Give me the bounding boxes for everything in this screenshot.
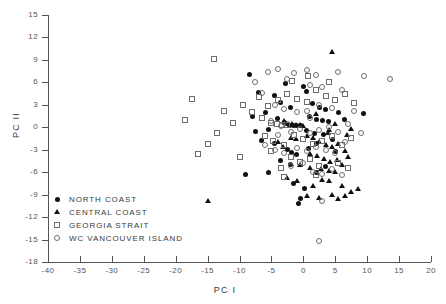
data-point: [348, 135, 354, 141]
data-point: [351, 108, 357, 114]
y-tick-mark: [42, 217, 48, 218]
x-tick-label: 10: [352, 266, 382, 275]
data-point: [189, 96, 195, 102]
y-tick-mark: [42, 82, 48, 83]
data-point: [272, 147, 278, 153]
data-point: [288, 154, 294, 160]
data-point: [345, 165, 351, 171]
y-tick-mark: [42, 150, 48, 151]
data-point: [278, 165, 284, 171]
data-point: [327, 159, 333, 164]
x-tick-label: 5: [320, 266, 350, 275]
data-point: [335, 196, 341, 201]
x-tick-mark: [303, 256, 304, 262]
data-point: [272, 102, 278, 108]
data-point: [182, 117, 188, 123]
data-point: [283, 81, 288, 86]
y-axis-title: PC II: [11, 95, 21, 155]
y-tick-mark: [42, 195, 48, 196]
data-point: [319, 177, 325, 182]
x-tick-label: -15: [193, 266, 223, 275]
data-point: [266, 127, 271, 132]
data-point: [288, 105, 293, 110]
scatter-plot-figure: -18-15-12-9-6-303691215 -40-35-30-25-20-…: [0, 0, 446, 304]
data-point: [313, 72, 319, 78]
x-tick-label: -10: [225, 266, 255, 275]
data-point: [321, 156, 327, 161]
data-point: [304, 89, 309, 94]
data-point: [259, 90, 265, 96]
data-point: [278, 123, 284, 129]
data-point: [294, 145, 300, 151]
data-point: [342, 148, 348, 153]
data-point: [307, 130, 313, 136]
data-point: [323, 107, 328, 112]
data-point: [284, 91, 290, 97]
x-tick-mark: [144, 256, 145, 262]
data-point: [305, 73, 311, 79]
y-tick-label: -12: [8, 212, 38, 221]
x-tick-label: -30: [97, 266, 127, 275]
data-point: [313, 144, 319, 150]
data-point: [329, 49, 335, 54]
x-tick-mark: [48, 256, 49, 262]
data-point: [247, 72, 252, 77]
y-tick-mark: [42, 15, 48, 16]
data-point: [316, 238, 322, 244]
data-point: [332, 121, 338, 126]
open-square-icon: [54, 222, 60, 228]
y-tick-mark: [42, 262, 48, 263]
data-point: [294, 96, 300, 102]
data-point: [284, 122, 290, 128]
x-tick-label: -40: [33, 266, 63, 275]
data-point: [304, 148, 310, 154]
data-point: [329, 192, 335, 197]
data-point: [387, 76, 393, 82]
data-point: [313, 87, 319, 93]
legend-label: NORTH COAST: [69, 193, 137, 206]
data-point: [275, 66, 281, 72]
data-point: [278, 158, 283, 163]
data-point: [342, 139, 348, 145]
data-point: [270, 138, 276, 144]
legend-label: CENTRAL COAST: [69, 206, 148, 219]
x-tick-mark: [335, 256, 336, 262]
data-point: [319, 198, 325, 204]
x-tick-label: -20: [161, 266, 191, 275]
data-point: [342, 193, 348, 198]
data-point: [205, 198, 211, 203]
data-point: [221, 108, 227, 114]
data-point: [335, 160, 341, 166]
x-tick-mark: [431, 256, 432, 262]
y-tick-label: 12: [8, 32, 38, 41]
data-point: [358, 130, 364, 136]
data-point: [319, 138, 325, 144]
data-point: [195, 151, 201, 157]
data-point: [249, 109, 255, 115]
data-point: [304, 99, 310, 105]
y-tick-label: -18: [8, 257, 38, 266]
data-point: [302, 186, 307, 191]
legend-label: GEORGIA STRAIT: [69, 219, 149, 232]
data-point: [288, 129, 294, 135]
data-point: [275, 132, 281, 138]
x-axis-title: PC I: [180, 285, 270, 295]
legend-label: WC VANCOUVER ISLAND: [69, 232, 183, 245]
data-point: [304, 193, 310, 198]
data-point: [275, 116, 280, 121]
data-point: [300, 136, 306, 142]
data-point: [314, 153, 320, 158]
x-tick-label: -25: [129, 266, 159, 275]
data-point: [281, 106, 287, 112]
x-tick-mark: [112, 256, 113, 262]
data-point: [304, 67, 310, 73]
open-circle-icon: [54, 235, 60, 241]
data-point: [326, 178, 332, 183]
data-point: [297, 126, 303, 132]
data-point: [316, 163, 322, 169]
x-tick-label: 15: [384, 266, 414, 275]
data-point: [265, 103, 271, 109]
x-tick-label: 0: [288, 266, 318, 275]
data-point: [310, 101, 315, 106]
data-point: [253, 129, 258, 134]
